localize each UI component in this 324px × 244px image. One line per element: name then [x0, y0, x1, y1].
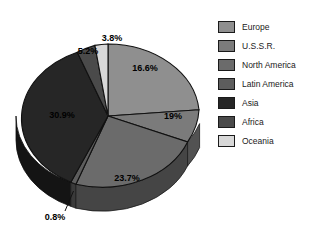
legend-item-africa[interactable]: Africa	[218, 114, 322, 130]
legend-label-north-america: North America	[242, 61, 296, 70]
pie-svg: 16.6% 19% 23.7% 0.8% 30.9% 5.2% 3.8%	[8, 8, 208, 236]
slice-value-africa: 5.2%	[78, 46, 99, 56]
legend-item-oceania[interactable]: Oceania	[218, 133, 322, 149]
legend-swatch-oceania	[218, 135, 235, 147]
legend-item-europe[interactable]: Europe	[218, 19, 322, 35]
legend-swatch-asia	[218, 97, 235, 109]
slice-value-oceania: 3.8%	[102, 33, 123, 43]
legend-swatch-north-america	[218, 59, 235, 71]
legend-swatch-europe	[218, 21, 235, 33]
slice-value-latin-america: 0.8%	[45, 212, 66, 222]
legend-label-ussr: U.S.S.R.	[242, 42, 275, 51]
pie-slice-europe	[108, 44, 199, 116]
legend-swatch-ussr	[218, 40, 235, 52]
slice-value-asia: 30.9%	[49, 110, 75, 120]
legend-item-latin-america[interactable]: Latin America	[218, 76, 322, 92]
legend-label-oceania: Oceania	[242, 137, 274, 146]
legend-item-ussr[interactable]: U.S.S.R.	[218, 38, 322, 54]
legend-label-africa: Africa	[242, 118, 264, 127]
legend-label-latin-america: Latin America	[242, 80, 294, 89]
pie-chart-figure: 16.6% 19% 23.7% 0.8% 30.9% 5.2% 3.8% Eur…	[0, 0, 324, 244]
legend-swatch-latin-america	[218, 78, 235, 90]
slice-value-north-america: 23.7%	[114, 173, 140, 183]
chart-legend: Europe U.S.S.R. North America Latin Amer…	[218, 19, 322, 152]
legend-swatch-africa	[218, 116, 235, 128]
slice-value-europe: 16.6%	[132, 63, 158, 73]
legend-label-europe: Europe	[242, 23, 269, 32]
pie-plot-area: 16.6% 19% 23.7% 0.8% 30.9% 5.2% 3.8%	[8, 8, 208, 236]
legend-label-asia: Asia	[242, 99, 259, 108]
legend-item-asia[interactable]: Asia	[218, 95, 322, 111]
slice-value-ussr: 19%	[164, 111, 182, 121]
legend-item-north-america[interactable]: North America	[218, 57, 322, 73]
